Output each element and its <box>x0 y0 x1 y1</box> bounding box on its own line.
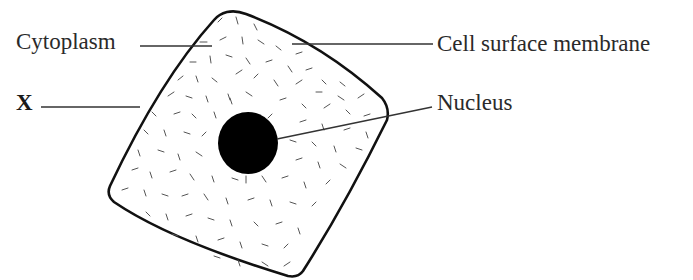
label-cell-surface-membrane: Cell surface membrane <box>437 32 650 55</box>
label-nucleus: Nucleus <box>437 91 512 114</box>
label-cytoplasm: Cytoplasm <box>16 30 116 53</box>
nucleus-shape <box>218 112 278 174</box>
label-x: X <box>16 91 33 114</box>
